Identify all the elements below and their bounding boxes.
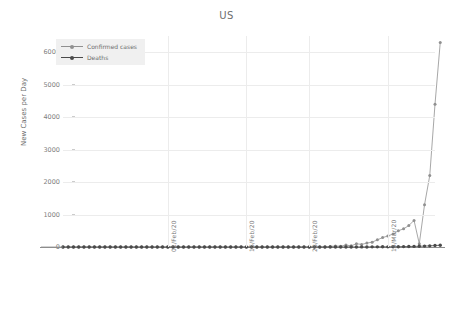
data-point	[381, 245, 384, 248]
legend-label: Confirmed cases	[87, 43, 137, 50]
data-point	[433, 244, 436, 247]
y-tick-label: 2000	[20, 178, 60, 186]
x-tick-label: 14/Mar/20	[390, 220, 397, 252]
data-point	[423, 203, 426, 206]
data-point	[302, 245, 305, 248]
data-point	[412, 245, 415, 248]
data-point	[229, 245, 232, 248]
data-point	[323, 245, 326, 248]
data-point	[287, 245, 290, 248]
data-point	[135, 245, 138, 248]
x-tick-label: 16/Feb/20	[248, 220, 255, 252]
data-point	[407, 224, 410, 227]
data-point	[260, 245, 263, 248]
data-point	[208, 245, 211, 248]
data-point	[192, 245, 195, 248]
data-point	[297, 245, 300, 248]
gridline-horizontal	[63, 182, 435, 183]
data-point	[67, 245, 70, 248]
data-point	[276, 245, 279, 248]
data-point	[428, 244, 431, 247]
data-point	[114, 245, 117, 248]
gridline-vertical	[246, 36, 247, 247]
data-point	[145, 245, 148, 248]
y-axis-ticks: 0100020003000400050006000	[12, 36, 60, 247]
data-point	[150, 245, 153, 248]
x-tick-label: 01/Feb/20	[170, 220, 177, 252]
data-point	[423, 244, 426, 247]
data-point	[434, 103, 437, 106]
data-point	[428, 174, 431, 177]
data-point	[187, 245, 190, 248]
data-point	[360, 245, 363, 248]
gridline-horizontal	[63, 150, 435, 151]
data-point	[77, 245, 80, 248]
data-point	[418, 245, 421, 248]
data-point	[365, 242, 368, 245]
data-point	[124, 245, 127, 248]
gridline-vertical	[388, 36, 389, 247]
data-point	[213, 245, 216, 248]
data-point	[218, 245, 221, 248]
data-point	[376, 238, 379, 241]
data-point	[234, 245, 237, 248]
y-tick-label: 5000	[20, 81, 60, 89]
data-point	[370, 245, 373, 248]
data-point	[82, 245, 85, 248]
data-point	[292, 245, 295, 248]
gridline-horizontal	[63, 117, 435, 118]
data-point	[439, 41, 442, 44]
data-point	[281, 245, 284, 248]
data-point	[355, 245, 358, 248]
gridline-horizontal	[63, 85, 435, 86]
data-point	[182, 245, 185, 248]
data-point	[198, 245, 201, 248]
data-point	[402, 245, 405, 248]
data-point	[161, 245, 164, 248]
y-tick-label: 4000	[20, 113, 60, 121]
data-point	[376, 245, 379, 248]
data-point	[72, 245, 75, 248]
y-tick-label: 3000	[20, 146, 60, 154]
data-point	[397, 245, 400, 248]
data-point	[344, 245, 347, 248]
data-point	[334, 245, 337, 248]
data-point	[381, 236, 384, 239]
data-point	[266, 245, 269, 248]
data-point	[271, 245, 274, 248]
data-point	[93, 245, 96, 248]
data-point	[329, 245, 332, 248]
data-point	[129, 245, 132, 248]
chart-title: US	[0, 10, 453, 21]
data-point	[239, 245, 242, 248]
data-point	[365, 245, 368, 248]
gridline-vertical	[168, 36, 169, 247]
x-tick-label: 28/Feb/20	[311, 220, 318, 252]
data-point	[103, 245, 106, 248]
chart-container: US New Cases per Day 0100020003000400050…	[0, 0, 453, 316]
data-point	[439, 244, 442, 247]
data-point	[339, 245, 342, 248]
data-point	[407, 245, 410, 248]
data-point	[119, 245, 122, 248]
data-point	[413, 219, 416, 222]
legend-item-deaths[interactable]: Deaths	[61, 54, 137, 61]
data-point	[255, 245, 258, 248]
gridline-vertical	[309, 36, 310, 247]
data-point	[371, 241, 374, 244]
y-tick-label: 6000	[20, 48, 60, 56]
legend-label: Deaths	[87, 54, 108, 61]
data-point	[349, 245, 352, 248]
series-line	[63, 42, 440, 247]
data-point	[355, 242, 358, 245]
data-point	[177, 245, 180, 248]
line-marker-icon	[61, 54, 83, 61]
data-point	[224, 245, 227, 248]
data-point	[108, 245, 111, 248]
data-point	[402, 227, 405, 230]
data-point	[203, 245, 206, 248]
legend-item-confirmed-cases[interactable]: Confirmed cases	[61, 43, 137, 50]
plot-area	[63, 36, 435, 247]
data-point	[87, 245, 90, 248]
gridline-horizontal	[63, 215, 435, 216]
